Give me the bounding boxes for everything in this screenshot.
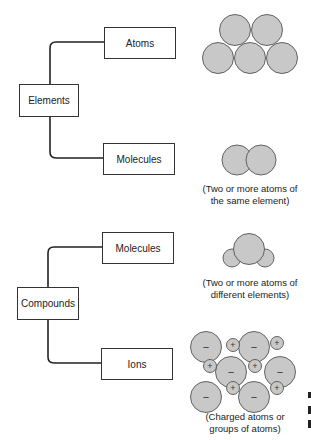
node-ions-label: Ions (128, 359, 147, 370)
node-molecules-label: Molecules (116, 154, 161, 165)
page-edge-mark (308, 392, 311, 398)
node-molecules-compounds: Molecules (102, 232, 174, 264)
caption-same-element: (Two or more atoms of the same element) (195, 183, 305, 207)
positive-sign: + (252, 361, 257, 371)
connector-elements-atoms (50, 42, 104, 84)
caption-different-elements: (Two or more atoms of different elements… (195, 277, 305, 301)
atom-circle (235, 43, 266, 74)
caption-line: (Two or more atoms of (195, 277, 305, 289)
node-molecules-label: Molecules (115, 243, 160, 254)
atom-circle (220, 15, 251, 46)
caption-line: (Two or more atoms of (195, 183, 305, 195)
page-edge-mark (308, 406, 311, 414)
node-compounds-label: Compounds (21, 298, 75, 309)
connector-compounds-ions (48, 319, 101, 363)
positive-sign: + (230, 383, 235, 393)
atom-circle (203, 43, 234, 74)
node-atoms: Atoms (104, 27, 176, 59)
node-molecules-elements: Molecules (103, 143, 175, 175)
positive-sign: + (274, 338, 279, 348)
caption-ions: (Charged atoms or groups of atoms) (190, 411, 300, 435)
page-edge-mark (308, 420, 311, 428)
positive-sign: + (207, 361, 212, 371)
molecule-different-elements-illustration (223, 234, 274, 268)
atoms-illustration (203, 15, 298, 74)
node-compounds: Compounds (17, 287, 79, 320)
node-ions: Ions (101, 348, 173, 380)
atom-circle (267, 43, 298, 74)
ions-illustration: −−−−−−++++++ (191, 332, 296, 413)
caption-line: (Charged atoms or (190, 411, 300, 423)
large-atom-circle (234, 234, 265, 265)
atom-circle (246, 145, 276, 175)
positive-sign: + (230, 340, 235, 350)
node-elements-label: Elements (28, 95, 70, 106)
caption-line: the same element) (195, 195, 305, 207)
node-elements: Elements (19, 84, 79, 117)
negative-sign: − (228, 366, 234, 378)
atom-circle (252, 15, 283, 46)
negative-sign: − (251, 391, 257, 403)
molecule-same-element-illustration (222, 145, 276, 175)
caption-line: groups of atoms) (190, 423, 300, 435)
node-atoms-label: Atoms (126, 38, 154, 49)
positive-sign: + (274, 383, 279, 393)
connector-elements-molecules (50, 116, 103, 158)
negative-sign: − (251, 341, 257, 353)
negative-sign: − (203, 391, 209, 403)
caption-line: different elements) (195, 289, 305, 301)
negative-sign: − (203, 341, 209, 353)
negative-sign: − (277, 366, 283, 378)
connector-compounds-molecules (48, 247, 102, 287)
